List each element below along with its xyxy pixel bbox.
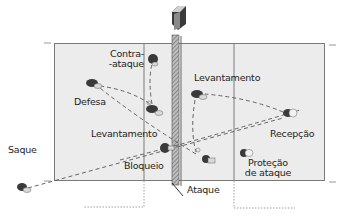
volleyball-diagram: Contra- -ataque Defesa Levantamento Saqu… (0, 0, 355, 222)
label-recepcao: Recepção (270, 129, 314, 139)
court-lines-and-paths (0, 0, 355, 222)
label-protecao-de-ataque: Proteção de ataque (243, 158, 293, 178)
label-levantamento-left: Levantamento (91, 129, 157, 139)
label-bloqueio: Bloqueio (124, 161, 164, 171)
label-ataque: Ataque (187, 185, 220, 195)
label-defesa: Defesa (74, 97, 106, 107)
label-levantamento-right: Levantamento (194, 73, 260, 83)
label-contra-ataque: Contra- -ataque (104, 49, 144, 69)
net (172, 35, 179, 185)
label-saque: Saque (8, 145, 37, 155)
